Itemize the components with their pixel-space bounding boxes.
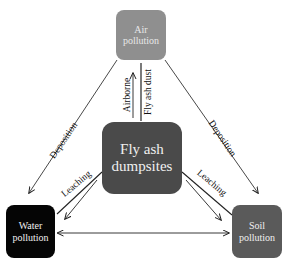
fly-line2: dumpsites [112,158,173,174]
label-fly-ash-dust: Fly ash dust [143,69,153,115]
air-line2: pollution [123,35,159,46]
node-water-pollution: Waterpollution [6,205,55,258]
node-fly-ash-dumpsites: Fly ashdumpsites [102,122,182,194]
label-leaching-right: Leaching [195,168,229,199]
soil-line1: Soil [249,220,265,231]
water-line1: Water [19,220,43,231]
label-airborne: Airborne [122,78,132,112]
soil-line2: pollution [239,232,275,243]
fly-line1: Fly ash [120,141,164,157]
air-line1: Air [134,24,147,35]
label-deposition-right: Deposition [207,118,239,158]
label-leaching-left: Leaching [59,168,93,199]
node-soil-pollution: Soilpollution [232,205,282,258]
node-air-pollution: Airpollution [116,10,166,60]
label-deposition-left: Deposition [48,120,80,160]
water-line2: pollution [12,232,48,243]
